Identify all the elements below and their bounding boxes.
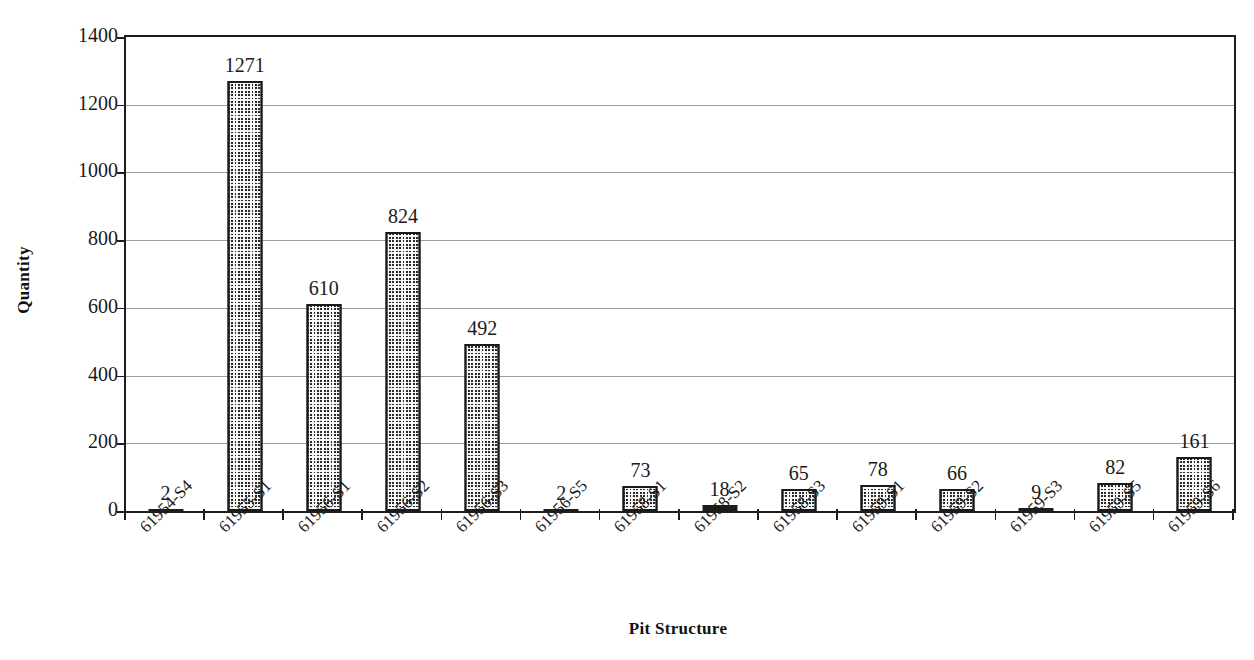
bar[interactable] [385, 232, 420, 511]
bar-slot: 824 [363, 37, 442, 511]
y-axis-tick-label: 1200 [40, 93, 118, 113]
x-axis-tick-labels: 61954-S461955-S161956-S161956-S261956-S3… [124, 509, 1232, 619]
y-axis-tick-label: 1000 [40, 160, 118, 180]
y-axis-tick-label: 400 [40, 364, 118, 384]
y-axis-tick-mark [117, 376, 126, 378]
bar-value-label: 1271 [225, 55, 265, 75]
bar-value-label: 610 [309, 278, 339, 298]
bar-slot: 610 [284, 37, 363, 511]
y-axis-tick-mark [117, 308, 126, 310]
bar-slot: 82 [1076, 37, 1155, 511]
bar-slot: 1271 [205, 37, 284, 511]
bar-slot: 492 [443, 37, 522, 511]
bar-value-label: 161 [1179, 431, 1209, 451]
y-axis-tick-mark [117, 240, 126, 242]
bar-chart: Quantity 0200400600800100012001400 21271… [0, 0, 1254, 660]
bar-slot: 2 [522, 37, 601, 511]
bar-slot: 18 [680, 37, 759, 511]
bar[interactable] [227, 81, 262, 511]
y-axis-title: Quantity [14, 200, 40, 360]
bar-value-label: 492 [467, 318, 497, 338]
y-axis-tick-mark [117, 105, 126, 107]
bar-value-label: 78 [868, 459, 888, 479]
bar-slot: 78 [838, 37, 917, 511]
bar-slot: 65 [759, 37, 838, 511]
bar-value-label: 824 [388, 206, 418, 226]
bar-series: 2127161082449227318657866982161 [126, 37, 1234, 511]
bar-slot: 73 [601, 37, 680, 511]
bar-value-label: 66 [947, 463, 967, 483]
y-axis-tick-label: 200 [40, 431, 118, 451]
y-axis-tick-mark [117, 172, 126, 174]
bar-slot: 66 [917, 37, 996, 511]
bar-value-label: 82 [1105, 457, 1125, 477]
bar-value-label: 65 [789, 463, 809, 483]
bar-slot: 161 [1155, 37, 1234, 511]
y-axis-tick-mark [117, 443, 126, 445]
x-axis-tick-mark [1232, 509, 1234, 520]
x-axis-title: Pit Structure [124, 619, 1232, 639]
plot-area: 2127161082449227318657866982161 [124, 35, 1236, 513]
y-axis-tick-label: 1400 [40, 25, 118, 45]
y-axis-tick-mark [117, 37, 126, 39]
bar-slot: 9 [997, 37, 1076, 511]
y-axis-tick-label: 0 [40, 499, 118, 519]
y-axis-tick-label: 600 [40, 296, 118, 316]
y-axis-tick-labels: 0200400600800100012001400 [40, 0, 118, 520]
bar-value-label: 73 [630, 460, 650, 480]
y-axis-tick-label: 800 [40, 228, 118, 248]
bar-slot: 2 [126, 37, 205, 511]
